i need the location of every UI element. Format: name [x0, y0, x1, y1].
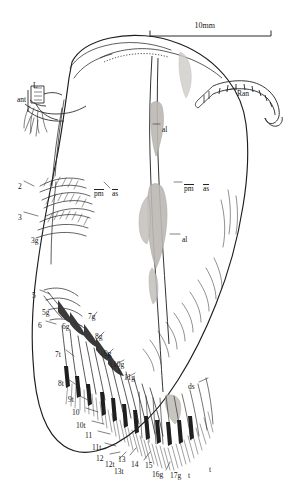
anatomy-label-n10g: 10g [113, 361, 124, 369]
anatomy-label-as2-text: as [203, 184, 209, 193]
specimen-figure [0, 0, 290, 485]
anatomy-label-n9g: 9g [104, 350, 112, 358]
anatomy-label-n5g: 5g [42, 309, 50, 317]
anatomy-label-n3: 3 [18, 214, 22, 222]
anatomy-label-as2: as [203, 184, 209, 193]
anatomy-label-t2: t [209, 466, 211, 474]
anatomy-label-al2: al [182, 236, 187, 244]
anatomy-label-n14: 14 [131, 461, 139, 469]
anatomy-label-n10: 10 [72, 409, 80, 417]
anatomy-label-pm1-text: pm [94, 189, 104, 198]
anatomy-label-pm1: pm [94, 189, 104, 198]
anatomy-label-n11g: 11g [124, 374, 135, 382]
anatomy-label-n7t: 7t [55, 351, 61, 359]
anatomy-label-t1: t [188, 472, 190, 480]
anatomy-label-n10t: 10t [76, 422, 86, 430]
anatomy-label-pm2-text: pm [184, 184, 194, 193]
anatomy-label-n8t: 8t [58, 380, 64, 388]
anatomy-label-n13: 13 [118, 456, 126, 464]
anatomy-label-n11: 11 [85, 432, 92, 440]
anatomy-label-ds: ds [188, 383, 195, 391]
anatomy-label-n6: 6 [38, 322, 42, 330]
anatomy-label-Ran: Ran [237, 90, 249, 98]
anatomy-label-n17g: 17g [170, 472, 181, 480]
anatomy-label-al1: al [162, 126, 167, 134]
scale-bar-label: 10mm [195, 22, 215, 30]
anatomy-label-L: L [33, 82, 38, 90]
anatomy-label-n13t: 13t [114, 468, 124, 476]
anatomy-label-ant: ant [17, 96, 26, 104]
anatomy-label-n6g: 6g [62, 323, 70, 331]
anatomy-label-as1: as [112, 189, 118, 198]
anatomy-label-n15: 15 [145, 462, 153, 470]
anatomy-label-n8g: 8g [95, 333, 103, 341]
anatomy-label-n3g: 3g [31, 237, 39, 245]
anatomy-label-as1-text: as [112, 189, 118, 198]
anatomy-label-n9t: 9t [68, 396, 74, 404]
anatomy-label-pm2: pm [184, 184, 194, 193]
anatomy-label-n11t: 11t [92, 444, 101, 452]
anatomy-label-n16g: 16g [152, 471, 163, 479]
anatomy-label-n12: 12 [96, 455, 104, 463]
anatomy-label-n2: 2 [18, 183, 22, 191]
anatomy-label-n7g: 7g [88, 313, 96, 321]
anatomy-label-n5: 5 [32, 292, 36, 300]
